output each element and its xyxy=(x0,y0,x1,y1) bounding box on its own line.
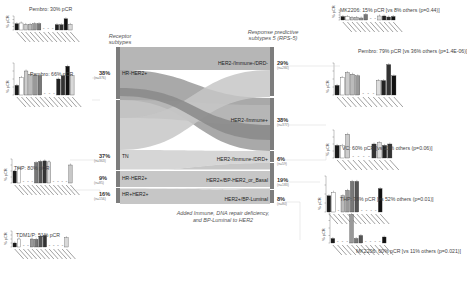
category-label xyxy=(21,32,30,42)
category-label xyxy=(44,32,53,42)
bar xyxy=(376,81,380,95)
category-label xyxy=(385,160,394,170)
bar xyxy=(356,76,360,95)
category-label xyxy=(357,214,366,224)
category-label xyxy=(329,214,338,224)
category-label xyxy=(53,249,62,259)
y-axis-label: % pCR xyxy=(325,143,330,156)
bar xyxy=(37,24,41,30)
category-label xyxy=(357,22,366,32)
category-label xyxy=(394,97,403,107)
zero-marker: 0 xyxy=(48,27,50,30)
bar xyxy=(351,74,355,95)
zero-marker: 0 xyxy=(362,92,364,95)
category-label xyxy=(380,22,389,32)
zero-marker: 0 xyxy=(370,240,372,243)
bar xyxy=(70,76,74,95)
right-node-count: (n=377) xyxy=(277,123,289,127)
bar xyxy=(345,73,349,95)
y-axis-label: % pCR xyxy=(317,197,322,210)
y-axis-label: % pCR xyxy=(5,80,10,93)
category-label xyxy=(40,185,49,195)
bar xyxy=(15,24,19,30)
category-label xyxy=(15,185,24,195)
category-label xyxy=(62,249,71,259)
category-label xyxy=(58,249,67,259)
right-node-label: HER2-/Immune-/DRD+ xyxy=(217,156,268,162)
category-label xyxy=(30,32,39,42)
zero-marker: 0 xyxy=(366,209,368,212)
zero-marker: 0 xyxy=(368,155,370,158)
category-label xyxy=(358,97,367,107)
category-label xyxy=(36,249,45,259)
category-label xyxy=(373,97,382,107)
bar xyxy=(57,79,61,95)
category-label xyxy=(19,249,28,259)
category-label xyxy=(389,97,398,107)
category-label xyxy=(36,185,45,195)
left-node-label: HR-HER2+ xyxy=(122,175,147,181)
zero-marker: 0 xyxy=(342,240,344,243)
bar xyxy=(13,243,16,247)
zero-marker: 0 xyxy=(373,92,375,95)
bar xyxy=(65,238,68,247)
bar xyxy=(382,16,386,20)
category-label xyxy=(70,32,79,42)
right-header: Response predictive subtypes 5 (RPS-5) xyxy=(240,29,306,42)
y-axis-label: % pCR xyxy=(3,232,8,245)
right-panel-title: Pembro: 79% pCR [vs 36% others (p=1.4E-0… xyxy=(358,48,467,54)
bar xyxy=(17,239,20,247)
category-label xyxy=(338,214,347,224)
bar xyxy=(33,24,37,30)
category-label xyxy=(363,160,372,170)
category-label xyxy=(334,214,343,224)
category-label xyxy=(378,97,387,107)
category-label xyxy=(368,97,377,107)
zero-marker: 0 xyxy=(31,180,33,183)
category-label xyxy=(26,32,35,42)
category-label xyxy=(362,214,371,224)
bar xyxy=(382,81,386,95)
left-node-count: (n=363) xyxy=(94,159,106,163)
zero-marker: 0 xyxy=(370,17,372,20)
left-panel-title: Pembro: 66% pCR xyxy=(30,71,73,77)
bar xyxy=(33,75,37,95)
category-label xyxy=(384,97,393,107)
category-label xyxy=(32,249,41,259)
category-label xyxy=(61,32,70,42)
bar xyxy=(341,17,345,21)
zero-marker: 0 xyxy=(338,209,340,212)
bar xyxy=(332,192,336,212)
zero-marker: 0 xyxy=(337,240,339,243)
category-label xyxy=(32,185,41,195)
zero-marker: 0 xyxy=(53,244,55,247)
category-label xyxy=(353,160,362,170)
category-label xyxy=(49,97,58,107)
category-label xyxy=(393,22,402,32)
bar xyxy=(55,25,59,30)
bar xyxy=(354,239,358,244)
bar xyxy=(382,237,386,243)
category-label xyxy=(35,97,44,107)
zero-marker: 0 xyxy=(49,92,51,95)
bar xyxy=(331,239,335,244)
y-axis-label: % pCR xyxy=(325,80,330,93)
left-node-label: HR-HER2+ xyxy=(122,70,147,76)
y-axis-label: % pCR xyxy=(321,228,326,241)
left-header: Receptor subtypes xyxy=(103,33,137,46)
zero-marker: 0 xyxy=(53,92,55,95)
category-label xyxy=(375,22,384,32)
category-label xyxy=(348,160,357,170)
bar xyxy=(378,16,382,20)
category-label xyxy=(26,97,35,107)
category-label xyxy=(17,97,26,107)
right-panel-title: VC: 60% pCR [vs 31% others (p=0.06)] xyxy=(342,145,432,151)
bar xyxy=(38,76,42,95)
zero-marker: 0 xyxy=(44,92,46,95)
bar xyxy=(387,17,391,20)
category-label xyxy=(374,160,383,170)
bar xyxy=(19,23,23,30)
category-label xyxy=(390,160,399,170)
category-label xyxy=(40,97,49,107)
zero-marker: 0 xyxy=(346,240,348,243)
